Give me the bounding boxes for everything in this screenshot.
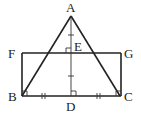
label-b: B <box>8 89 17 104</box>
label-g: G <box>124 46 133 61</box>
label-a: A <box>66 0 76 15</box>
label-d: D <box>66 99 75 114</box>
label-e: E <box>74 39 82 54</box>
label-f: F <box>8 46 15 61</box>
label-c: C <box>124 89 133 104</box>
segment-ac <box>71 16 120 96</box>
segment-ab <box>22 16 71 96</box>
geometry-figure: A E F G B C D <box>0 0 141 114</box>
